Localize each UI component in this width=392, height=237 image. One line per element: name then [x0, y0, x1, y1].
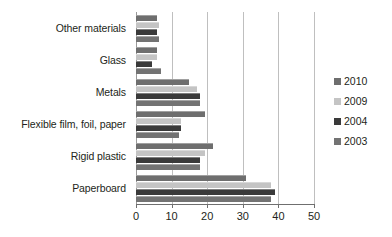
bar-row	[136, 36, 314, 42]
bar[interactable]	[136, 175, 246, 181]
bar[interactable]	[136, 68, 161, 74]
value-axis-tick-label: 50	[308, 210, 320, 222]
category-label-paperboard: Paperboard	[0, 172, 131, 204]
legend-item-label: 2009	[344, 96, 367, 107]
bar-row	[136, 93, 314, 99]
bar-group	[136, 172, 314, 204]
bar[interactable]	[136, 182, 271, 188]
bar[interactable]	[136, 86, 197, 92]
bar-row	[136, 182, 314, 188]
bar[interactable]	[136, 189, 275, 195]
bar[interactable]	[136, 196, 271, 202]
legend-item-label: 2010	[344, 76, 367, 87]
legend-item[interactable]: 2004	[334, 116, 392, 127]
bar-group	[136, 44, 314, 76]
category-label-other-materials: Other materials	[0, 12, 131, 44]
legend-item[interactable]: 2009	[334, 96, 392, 107]
legend-item-label: 2003	[344, 136, 367, 147]
legend-swatch-icon	[334, 78, 341, 85]
bar[interactable]	[136, 157, 200, 163]
bar-row	[136, 47, 314, 53]
value-axis-tick	[172, 204, 173, 208]
category-label-metals: Metals	[0, 76, 131, 108]
value-axis-tick-label: 30	[237, 210, 249, 222]
bar[interactable]	[136, 100, 200, 106]
category-label-text: Metals	[96, 87, 126, 98]
bar-row	[136, 150, 314, 156]
bar[interactable]	[136, 150, 205, 156]
bar-row	[136, 68, 314, 74]
value-axis-tick	[243, 204, 244, 208]
bar[interactable]	[136, 164, 200, 170]
plot-area	[136, 12, 314, 204]
bar-row	[136, 22, 314, 28]
bar[interactable]	[136, 47, 157, 53]
value-axis-baseline	[136, 204, 315, 205]
category-label-text: Rigid plastic	[71, 151, 126, 162]
value-axis-tick-label: 0	[133, 210, 139, 222]
legend-item[interactable]: 2010	[334, 76, 392, 87]
bar-group	[136, 76, 314, 108]
value-axis-tick-label: 20	[201, 210, 213, 222]
bar[interactable]	[136, 111, 205, 117]
value-axis-tick	[278, 204, 279, 208]
category-axis: Other materials Glass Metals Flexible fi…	[0, 12, 131, 204]
bar[interactable]	[136, 15, 157, 21]
bar-row	[136, 157, 314, 163]
bar-group	[136, 140, 314, 172]
bar-row	[136, 111, 314, 117]
category-label-rigid-plastic: Rigid plastic	[0, 140, 131, 172]
bar[interactable]	[136, 54, 157, 60]
bar-row	[136, 79, 314, 85]
bar[interactable]	[136, 79, 189, 85]
legend-item[interactable]: 2003	[334, 136, 392, 147]
bar-group	[136, 12, 314, 44]
category-label-text: Other materials	[56, 23, 126, 34]
bar-row	[136, 196, 314, 202]
legend-swatch-icon	[334, 118, 341, 125]
category-label-glass: Glass	[0, 44, 131, 76]
bar-row	[136, 175, 314, 181]
bar-row	[136, 125, 314, 131]
bar-row	[136, 118, 314, 124]
bar[interactable]	[136, 22, 159, 28]
bar[interactable]	[136, 29, 157, 35]
bar[interactable]	[136, 125, 181, 131]
category-label-text: Paperboard	[72, 183, 126, 194]
value-axis-tick	[207, 204, 208, 208]
bar-row	[136, 15, 314, 21]
legend-item-label: 2004	[344, 116, 367, 127]
category-label-flexible-film-foil-paper: Flexible film, foil, paper	[0, 108, 131, 140]
bar-row	[136, 189, 314, 195]
value-axis-tick	[314, 204, 315, 208]
value-axis-tick-label: 40	[272, 210, 284, 222]
bar-row	[136, 86, 314, 92]
value-axis-tick-label: 10	[165, 210, 177, 222]
value-axis-tick	[136, 204, 137, 208]
bar[interactable]	[136, 61, 152, 67]
legend-swatch-icon	[334, 138, 341, 145]
bar[interactable]	[136, 132, 179, 138]
bar-row	[136, 61, 314, 67]
bar-row	[136, 100, 314, 106]
bar-row	[136, 132, 314, 138]
bar-chart-figure: Other materials Glass Metals Flexible fi…	[0, 0, 392, 237]
bar-row	[136, 54, 314, 60]
bar-row	[136, 143, 314, 149]
gridline	[314, 12, 315, 204]
bar[interactable]	[136, 143, 213, 149]
legend-swatch-icon	[334, 98, 341, 105]
bar[interactable]	[136, 36, 159, 42]
category-label-text: Flexible film, foil, paper	[21, 119, 126, 130]
bar-group	[136, 108, 314, 140]
bar[interactable]	[136, 93, 200, 99]
bar-row	[136, 29, 314, 35]
bars-layer	[136, 12, 314, 204]
bar[interactable]	[136, 118, 181, 124]
category-label-text: Glass	[100, 55, 126, 66]
legend: 2010200920042003	[334, 76, 392, 147]
bar-row	[136, 164, 314, 170]
